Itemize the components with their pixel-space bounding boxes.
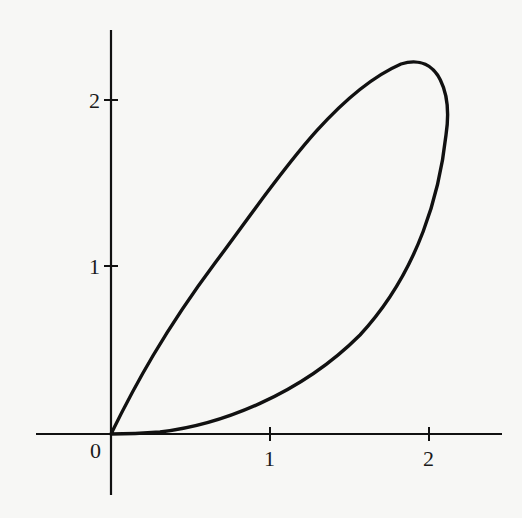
chart-canvas: 1 2 1 2 0 — [0, 0, 522, 518]
x-tick-label-2: 2 — [423, 446, 434, 471]
loop-curve — [111, 62, 447, 434]
origin-label: 0 — [90, 438, 101, 463]
x-tick-label-1: 1 — [264, 446, 275, 471]
y-tick-label-1: 1 — [89, 254, 100, 279]
y-tick-label-2: 2 — [89, 88, 100, 113]
